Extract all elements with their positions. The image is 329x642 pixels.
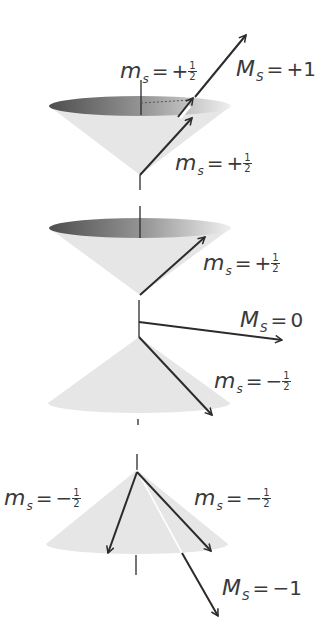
state-ms-minus-one [46, 454, 228, 616]
cone-body-lower [48, 337, 230, 413]
label-total-ms-zero: MS=0 [240, 307, 303, 332]
label-total-ms-plus-one: MS=+1 [236, 56, 316, 81]
total-spin-arrow [182, 553, 218, 616]
label-ms-minus-half-right: ms=−12 [194, 485, 271, 511]
label-ms-minus-half-state2: ms=−12 [214, 368, 291, 394]
label-ms-plus-half-top: ms=+12 [120, 58, 197, 84]
label-ms-plus-half-state2: ms=+12 [203, 250, 280, 276]
label-total-ms-minus-one: MS=−1 [222, 575, 302, 600]
label-ms-plus-half-bottom: ms=+12 [175, 150, 252, 176]
cone-rim [49, 96, 231, 116]
label-ms-minus-half-left: ms=−12 [4, 485, 81, 511]
